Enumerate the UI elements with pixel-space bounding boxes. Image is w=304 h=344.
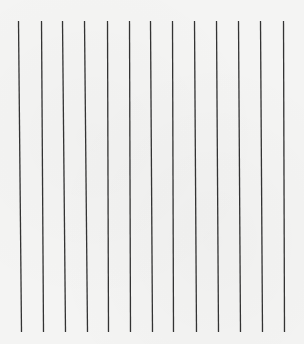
vertical-line bbox=[108, 21, 109, 332]
vertical-line bbox=[42, 21, 44, 332]
vertical-line bbox=[173, 21, 174, 332]
vertical-lines bbox=[0, 0, 304, 344]
vertical-line bbox=[151, 21, 153, 332]
vertical-line bbox=[195, 21, 197, 332]
vertical-line bbox=[284, 21, 285, 332]
vertical-line bbox=[239, 21, 241, 332]
lined-paper-sheet bbox=[0, 0, 304, 344]
vertical-line bbox=[217, 21, 219, 332]
vertical-line bbox=[261, 21, 263, 332]
vertical-line bbox=[130, 21, 131, 332]
vertical-line bbox=[85, 21, 88, 332]
vertical-line bbox=[19, 21, 22, 332]
vertical-line bbox=[63, 21, 66, 332]
